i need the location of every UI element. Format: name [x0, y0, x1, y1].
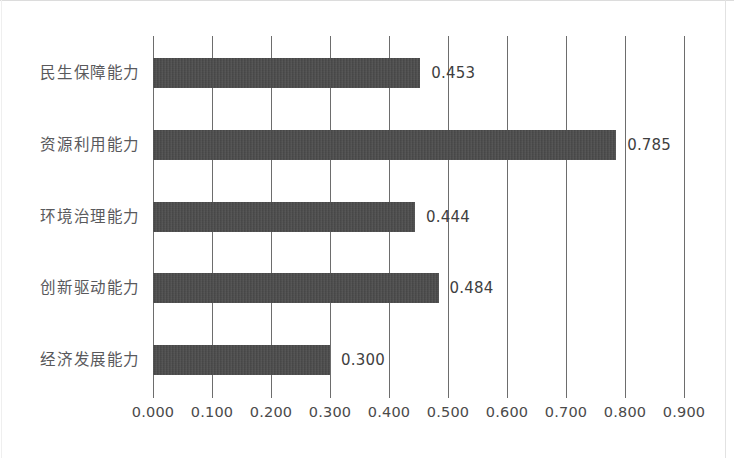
x-tick-label: 0.300	[309, 404, 352, 420]
bar-row[interactable]: 0.785	[153, 130, 684, 160]
bar-row[interactable]: 0.453	[153, 58, 684, 88]
x-tick-label: 0.800	[604, 404, 647, 420]
x-tick-label: 0.200	[250, 404, 293, 420]
bar-row[interactable]: 0.444	[153, 202, 684, 232]
bar-row[interactable]: 0.484	[153, 273, 684, 303]
x-tick-label: 0.400	[368, 404, 411, 420]
bar-value-label: 0.484	[450, 279, 494, 297]
gridline	[684, 36, 685, 398]
x-tick-label: 0.900	[663, 404, 706, 420]
bar[interactable]	[153, 130, 616, 160]
category-label: 民生保障能力	[40, 58, 140, 88]
bar-chart: 民生保障能力资源利用能力环境治理能力创新驱动能力经济发展能力 0.4530.78…	[0, 0, 734, 458]
bar-value-label: 0.785	[627, 136, 671, 154]
x-tick-label: 0.600	[486, 404, 529, 420]
category-label: 经济发展能力	[40, 345, 140, 375]
bar[interactable]	[153, 58, 420, 88]
scan-edge-right-border	[725, 0, 726, 458]
bar-value-label: 0.453	[431, 64, 475, 82]
value-axis-tick-labels: 0.0000.1000.2000.3000.4000.5000.6000.700…	[153, 404, 684, 432]
category-axis-labels: 民生保障能力资源利用能力环境治理能力创新驱动能力经济发展能力	[0, 36, 140, 398]
bar[interactable]	[153, 345, 330, 375]
category-label: 环境治理能力	[40, 202, 140, 232]
x-tick-label: 0.700	[545, 404, 588, 420]
x-tick-label: 0.000	[132, 404, 175, 420]
x-tick-label: 0.500	[427, 404, 470, 420]
scan-edge-top-border	[0, 0, 734, 1]
plot-area: 0.4530.7850.4440.4840.300	[153, 36, 684, 398]
bar-row[interactable]: 0.300	[153, 345, 684, 375]
x-tick-label: 0.100	[191, 404, 234, 420]
category-label: 创新驱动能力	[40, 273, 140, 303]
bar-value-label: 0.444	[426, 208, 470, 226]
bar[interactable]	[153, 202, 415, 232]
category-label: 资源利用能力	[40, 130, 140, 160]
bar-value-label: 0.300	[341, 351, 385, 369]
bar[interactable]	[153, 273, 439, 303]
